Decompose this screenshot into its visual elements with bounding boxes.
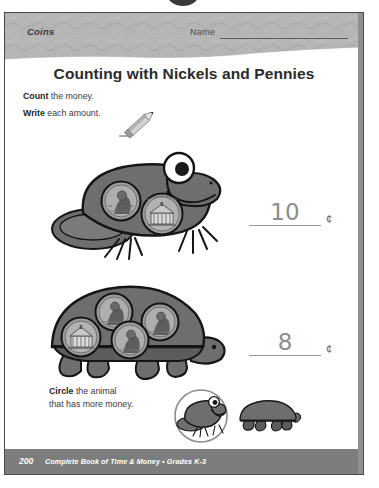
instruction-count-verb: Count [23, 91, 48, 101]
instruction-write: Write each amount. [23, 108, 101, 118]
instruction-circle-rest: the animal [73, 386, 116, 396]
choice-frog[interactable] [171, 388, 231, 444]
instruction-circle-line2: that has more money. [49, 399, 133, 409]
answer-value-frog: 10 [249, 201, 321, 224]
worksheet-page: Coins Name Counting with Nickels and Pen… [0, 0, 379, 488]
frog-illustration [49, 145, 229, 265]
name-label: Name [190, 27, 215, 37]
pencil-icon [118, 112, 162, 138]
coin-penny [102, 182, 141, 221]
instruction-circle: Circle the animal that has more money. [49, 385, 133, 411]
footer-book-title: Complete Book of Time & Money • Grades K… [45, 457, 206, 466]
instruction-write-rest: each amount. [45, 108, 101, 118]
worksheet-sheet: Coins Name Counting with Nickels and Pen… [4, 12, 364, 475]
coin-nickel [142, 194, 183, 235]
answer-row-turtle[interactable]: 8 ¢ [249, 329, 332, 356]
footer-page-number: 200 [19, 456, 33, 466]
answer-value-turtle: 8 [249, 331, 321, 354]
answer-line-turtle[interactable]: 8 [249, 329, 321, 356]
turtle-illustration [47, 277, 237, 387]
page-title: Counting with Nickels and Pennies [5, 65, 363, 83]
instruction-count-rest: the money. [48, 91, 93, 101]
worksheet-footer: 200 Complete Book of Time & Money • Grad… [5, 449, 363, 474]
name-write-line[interactable] [220, 38, 348, 39]
answer-row-frog[interactable]: 10 ¢ [249, 199, 332, 226]
section-label: Coins [27, 26, 54, 37]
instruction-write-verb: Write [23, 108, 45, 118]
coin-nickel [62, 318, 101, 357]
instruction-circle-line1: Circle the animal [49, 386, 116, 396]
worksheet-header-band: Coins Name [5, 13, 363, 63]
scan-artifact [168, 0, 198, 6]
choice-turtle[interactable] [237, 398, 301, 432]
cent-symbol-frog: ¢ [326, 213, 332, 226]
answer-line-frog[interactable]: 10 [249, 199, 321, 226]
page-edge-shadow [358, 13, 363, 474]
coin-penny [112, 322, 149, 359]
instruction-count: Count the money. [23, 91, 94, 101]
instruction-circle-verb: Circle [49, 386, 73, 396]
cent-symbol-turtle: ¢ [326, 343, 332, 356]
